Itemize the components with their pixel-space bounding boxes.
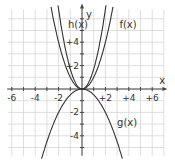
x-tick-label: +2 (99, 93, 112, 103)
x-axis-label: x (159, 75, 165, 86)
curve-label: g(x) (117, 117, 137, 128)
y-tick-label: -4 (70, 131, 79, 141)
y-tick-label: +2 (66, 61, 79, 71)
curve-label: f(x) (119, 19, 136, 30)
x-axis-arrow-icon (162, 87, 167, 91)
x-tick-label: +4 (122, 93, 136, 103)
y-axis-label: y (86, 9, 92, 20)
y-tick-label: +4 (66, 37, 80, 47)
y-tick-label: -2 (70, 107, 79, 117)
x-tick-label: -6 (7, 93, 16, 103)
x-tick-label: -2 (54, 93, 63, 103)
x-tick-label: -4 (31, 93, 40, 103)
y-axis-arrow-icon (80, 4, 84, 9)
x-tick-label: +6 (146, 93, 160, 103)
function-graph: -6-4-2+2+4+6+4+2-2-4xyf(x)h(x)g(x) (0, 0, 175, 160)
curve-label: h(x) (68, 19, 88, 30)
